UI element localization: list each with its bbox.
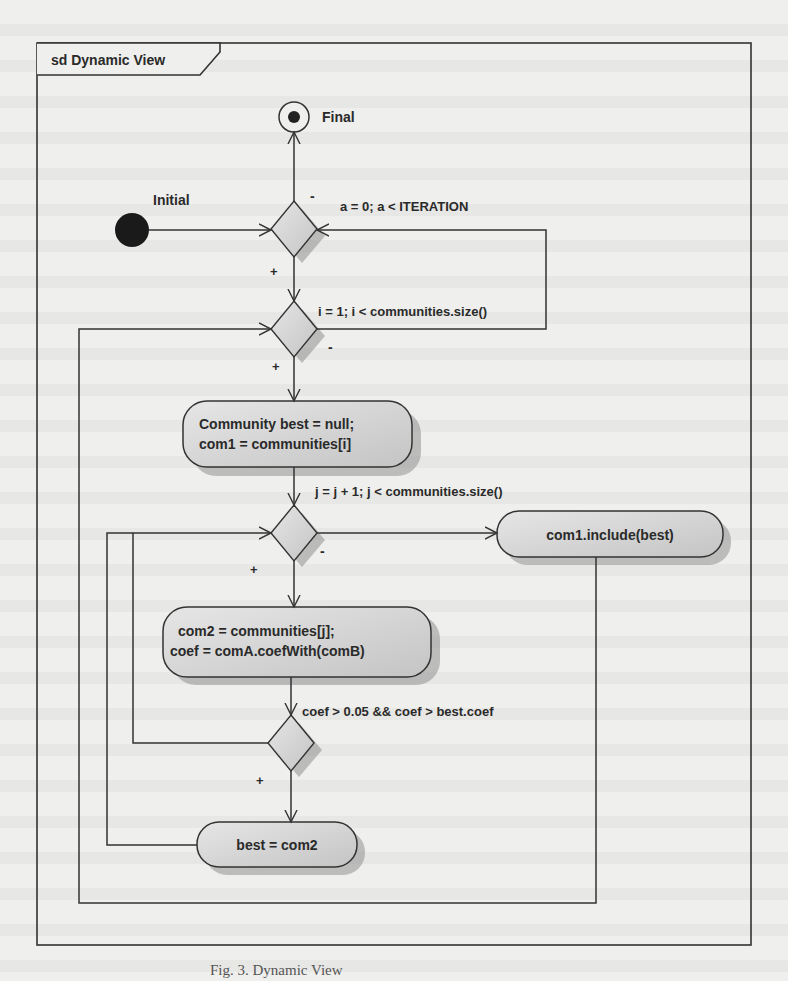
plus-marker: + — [256, 773, 264, 788]
guard-outer-loop: a = 0; a < ITERATION — [340, 199, 468, 214]
action-include[interactable]: com1.include(best) — [497, 511, 731, 565]
decision-j-loop — [271, 505, 325, 567]
decision-coef-check — [268, 715, 322, 777]
action-com2-line1: com2 = communities[j]; — [178, 623, 335, 639]
action-init-best[interactable]: Community best = null; com1 = communitie… — [183, 401, 421, 476]
guard-i-loop: i = 1; i < communities.size() — [318, 304, 487, 319]
guard-j-loop: j = j + 1; j < communities.size() — [314, 484, 502, 499]
final-label: Final — [322, 109, 355, 125]
minus-marker: - — [328, 339, 333, 355]
action-init-best-line1: Community best = null; — [199, 416, 354, 432]
action-best-label: best = com2 — [236, 837, 318, 853]
action-com2-line2: coef = comA.coefWith(comB) — [170, 643, 365, 659]
initial-node: Initial — [115, 192, 190, 247]
final-node: Final — [279, 102, 355, 132]
edge-best-to-j — [107, 533, 197, 845]
action-best[interactable]: best = com2 — [197, 822, 365, 875]
action-com2[interactable]: com2 = communities[j]; coef = comA.coefW… — [163, 607, 440, 685]
plus-marker: + — [272, 359, 280, 374]
action-include-label: com1.include(best) — [546, 527, 674, 543]
decision-outer-loop — [271, 201, 325, 263]
action-init-best-line2: com1 = communities[i] — [199, 436, 351, 452]
minus-marker: - — [320, 543, 325, 559]
activity-diagram: sd Dynamic View Final Initial a = 0; a <… — [0, 0, 788, 981]
initial-label: Initial — [153, 192, 190, 208]
figure-caption: Fig. 3. Dynamic View — [210, 962, 343, 979]
plus-marker: + — [250, 562, 258, 577]
minus-marker: - — [310, 188, 315, 204]
decision-i-loop — [271, 301, 325, 363]
frame-title: sd Dynamic View — [51, 52, 165, 68]
guard-coef-check: coef > 0.05 && coef > best.coef — [302, 704, 494, 719]
plus-marker: + — [270, 264, 278, 279]
